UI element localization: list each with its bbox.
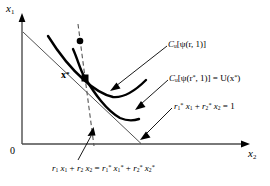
y-axis-label: x1 [6,2,14,15]
annotation-budget-line-tangent: r1 x1 + r2 x2 = r1* x1* + r2* x2* [52,163,155,173]
x-star-marker [82,75,89,82]
annotation-cost-function-rstar: Cu[ψ(r*, 1)] = U(x*) [169,73,240,83]
leader-line-budget-star [146,108,172,134]
cost-curve-rstar [73,49,139,120]
y-axis-arrowhead [19,13,26,22]
diagram-graphics [0,0,270,186]
x-star-label: x* [61,69,70,80]
leader-line-cost-r [116,46,167,86]
leader-arrow-cost-rstar [135,101,146,110]
leader-arrow-budget-star [140,132,151,141]
x-axis-label: x2 [248,147,256,160]
figure-canvas: x1 x2 0 x* Cu[ψ(r, 1)] Cu[ψ(r*, 1)] = U(… [0,0,270,186]
upper-curve-dot [77,38,84,45]
cost-curve-r [48,36,146,97]
origin-label: 0 [10,145,15,156]
leader-line-cost-rstar [141,80,168,104]
budget-line-star [23,32,141,144]
annotation-cost-function-r: Cu[ψ(r, 1)] [168,39,206,49]
annotation-budget-line-star: r1* x1 + r2* x2 = 1 [174,101,235,111]
leader-line-budget-tangent [78,136,91,160]
